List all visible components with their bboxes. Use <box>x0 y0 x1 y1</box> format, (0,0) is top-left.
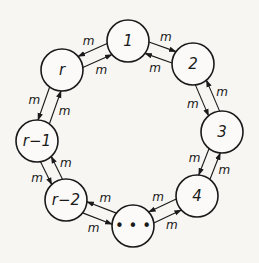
transition-rate-label: m <box>219 163 231 177</box>
transition-rate-label: m <box>59 104 71 118</box>
state-label: r <box>59 61 66 79</box>
state-label: 3 <box>217 123 227 141</box>
state-node-2: 2 <box>172 43 214 85</box>
transition-rate-label: m <box>83 34 95 48</box>
ring-state-diagram: mmmmmmmmmmmmmmmm 1234• • •r−2r−1r <box>0 0 259 263</box>
transition-rate-label: m <box>216 85 228 99</box>
transition-rate-label: m <box>149 61 161 75</box>
transition-rate-label: m <box>99 191 111 205</box>
nodes-layer: 1234• • •r−2r−1r <box>16 20 243 247</box>
transition-rate-label: m <box>189 151 201 165</box>
state-node-1: 1 <box>107 20 149 62</box>
state-node-dots: • • • <box>112 205 154 247</box>
transition-rate-label: m <box>166 218 178 232</box>
state-label: • • • <box>115 217 151 235</box>
transition-rate-label: m <box>187 97 199 111</box>
state-label: r−2 <box>52 191 80 209</box>
state-node-4: 4 <box>176 175 218 217</box>
transition-rate-label: m <box>96 63 108 77</box>
state-node-r-2: r−2 <box>45 179 87 221</box>
transition-rate-label: m <box>31 171 43 185</box>
state-label: 4 <box>192 187 202 205</box>
state-label: 2 <box>188 55 198 73</box>
state-label: r−1 <box>23 132 51 150</box>
state-node-r: r <box>41 49 83 91</box>
state-node-3: 3 <box>201 111 243 153</box>
transition-rate-label: m <box>160 30 172 44</box>
transition-rate-label: m <box>29 93 41 107</box>
transition-rate-label: m <box>152 190 164 204</box>
state-node-r-1: r−1 <box>16 120 58 162</box>
transition-rate-label: m <box>60 156 72 170</box>
transition-rate-label: m <box>88 221 100 235</box>
state-label: 1 <box>123 32 133 50</box>
